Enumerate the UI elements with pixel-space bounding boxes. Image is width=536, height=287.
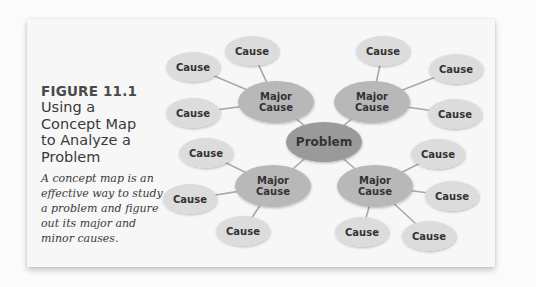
minor-cause-node-label: Cause <box>176 62 210 73</box>
major-cause-node: MajorCause <box>337 165 413 207</box>
minor-cause-node-label: Cause <box>176 108 210 119</box>
minor-cause-node-label: Cause <box>345 227 379 238</box>
major-cause-node: MajorCause <box>235 165 311 207</box>
concept-map: CauseCauseCauseMajorCauseCauseCauseCause… <box>0 0 536 287</box>
minor-cause-node-label: Cause <box>421 149 455 160</box>
minor-cause-node: Cause <box>166 98 220 128</box>
minor-cause-node: Cause <box>179 138 233 168</box>
minor-cause-node: Cause <box>429 54 483 84</box>
minor-cause-node: Cause <box>163 184 217 214</box>
minor-cause-node-label: Cause <box>439 64 473 75</box>
major-cause-node-label: Major <box>260 91 292 102</box>
major-cause-node-label: Cause <box>256 186 290 197</box>
major-cause-node-label: Major <box>359 175 391 186</box>
minor-cause-node-label: Cause <box>226 226 260 237</box>
major-cause-node-label: Major <box>257 175 289 186</box>
major-cause-node-label: Cause <box>259 102 293 113</box>
minor-cause-node: Cause <box>411 139 465 169</box>
minor-cause-node-label: Cause <box>438 109 472 120</box>
minor-cause-node: Cause <box>335 217 389 247</box>
minor-cause-node: Cause <box>425 181 479 211</box>
concept-nodes: CauseCauseCauseMajorCauseCauseCauseCause… <box>163 36 483 251</box>
minor-cause-node-label: Cause <box>435 191 469 202</box>
major-cause-node-label: Cause <box>355 102 389 113</box>
problem-node: Problem <box>286 122 362 162</box>
minor-cause-node: Cause <box>402 221 456 251</box>
minor-cause-node: Cause <box>428 99 482 129</box>
minor-cause-node: Cause <box>166 52 220 82</box>
major-cause-node-label: Major <box>356 91 388 102</box>
minor-cause-node-label: Cause <box>189 148 223 159</box>
minor-cause-node: Cause <box>356 36 410 66</box>
minor-cause-node-label: Cause <box>366 46 400 57</box>
major-cause-node: MajorCause <box>334 81 410 123</box>
major-cause-node: MajorCause <box>238 81 314 123</box>
minor-cause-node: Cause <box>225 36 279 66</box>
minor-cause-node: Cause <box>216 216 270 246</box>
major-cause-node-label: Cause <box>358 186 392 197</box>
minor-cause-node-label: Cause <box>173 194 207 205</box>
minor-cause-node-label: Cause <box>412 231 446 242</box>
problem-node-label: Problem <box>296 135 352 149</box>
minor-cause-node-label: Cause <box>235 46 269 57</box>
